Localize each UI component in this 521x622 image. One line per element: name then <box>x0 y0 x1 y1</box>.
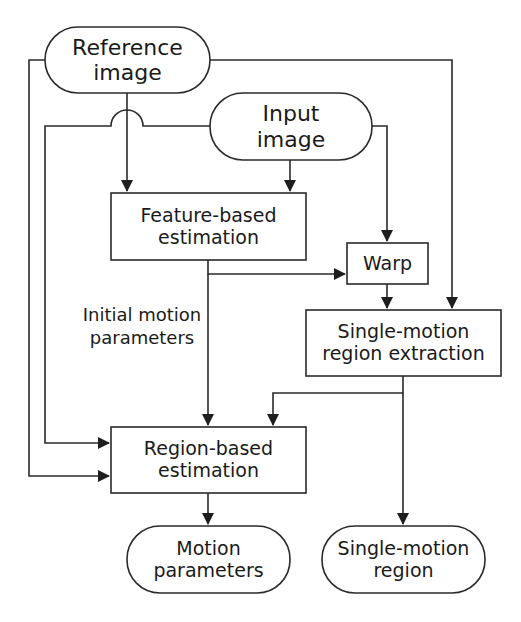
edge-feature-to-warp <box>208 260 345 274</box>
edge-ref-to-region <box>29 60 109 476</box>
motion-parameters-label-line1: Motion <box>176 538 240 560</box>
region-based-estimation-node: Region-based estimation <box>111 427 306 493</box>
extraction-label-line1: Single-motion <box>338 321 470 343</box>
warp-label: Warp <box>363 253 412 275</box>
motion-parameters-label-line2: parameters <box>153 560 263 582</box>
input-image-label-line1: Input <box>263 101 320 126</box>
reference-image-label-line1: Reference <box>72 35 183 60</box>
feature-based-label-line2: estimation <box>158 227 259 249</box>
region-based-label-line1: Region-based <box>144 438 273 460</box>
edge-input-to-warp <box>372 126 387 241</box>
reference-image-label-line2: image <box>93 60 162 85</box>
input-image-label-line2: image <box>257 127 326 152</box>
single-motion-region-extraction-node: Single-motion region extraction <box>306 310 501 376</box>
initial-motion-parameters-label: Initial motion parameters <box>78 303 206 350</box>
motion-parameters-node: Motion parameters <box>127 526 290 593</box>
input-image-node: Input image <box>210 93 372 160</box>
single-motion-region-label-line2: region <box>373 560 433 582</box>
feature-based-label-line1: Feature-based <box>140 205 276 227</box>
single-motion-region-label-line1: Single-motion <box>338 538 470 560</box>
feature-based-estimation-node: Feature-based estimation <box>111 193 306 260</box>
region-based-label-line2: estimation <box>158 460 259 482</box>
single-motion-region-node: Single-motion region <box>322 526 485 593</box>
edge-extraction-to-region <box>273 376 403 425</box>
initial-motion-label-line1: Initial motion <box>78 303 206 326</box>
extraction-label-line2: region extraction <box>322 343 484 365</box>
initial-motion-label-line2: parameters <box>78 326 206 349</box>
warp-node: Warp <box>347 243 428 284</box>
reference-image-node: Reference image <box>45 27 210 93</box>
